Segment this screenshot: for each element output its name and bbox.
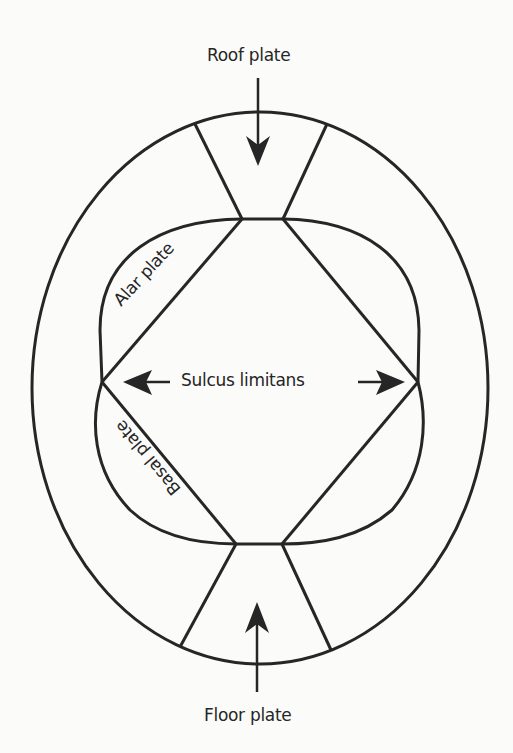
sulcus-left-arrow-icon: [123, 370, 170, 395]
roof-arrow-icon: [246, 78, 270, 166]
neural-tube-diagram: Roof plate Alar plate Sulcus limitans Ba…: [0, 0, 513, 753]
floor-plate-left-edge: [180, 544, 236, 647]
lumen-lower-right-edge: [282, 382, 418, 544]
lumen-upper-right-edge: [283, 219, 418, 382]
floor-plate-label: Floor plate: [204, 705, 291, 725]
roof-plate-label: Roof plate: [207, 45, 290, 65]
sulcus-limitans-label: Sulcus limitans: [181, 370, 305, 390]
lumen-lower-left-edge: [102, 382, 236, 544]
floor-arrow-icon: [245, 602, 269, 692]
roof-plate-right-edge: [283, 124, 327, 219]
floor-plate-right-edge: [282, 544, 331, 650]
roof-plate-left-edge: [195, 124, 242, 219]
sulcus-right-arrow-icon: [358, 370, 405, 395]
